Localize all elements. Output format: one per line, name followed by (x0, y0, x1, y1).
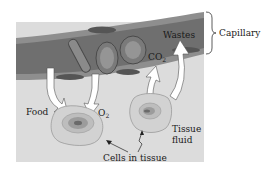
red-blood-cell-center (125, 41, 141, 59)
cells-in-tissue-label: Cells in tissue (103, 154, 167, 163)
cells-in-tissue-text: Cells in tissue (103, 153, 167, 163)
co2-subscript: 2 (162, 56, 166, 63)
o2-label: O2 (98, 109, 109, 119)
cell-1-nucleolus (74, 121, 82, 125)
endothelial-nucleus (116, 69, 140, 75)
endothelial-nucleus (56, 74, 84, 80)
food-text: Food (26, 107, 48, 117)
tissue-fluid-line-1: Tissue (172, 124, 201, 135)
wastes-text: Wastes (163, 30, 195, 40)
cell-2-nucleolus (144, 109, 150, 112)
red-blood-cell-center (100, 47, 114, 69)
co2-text: CO (148, 52, 162, 62)
co2-label: CO2 (148, 53, 166, 63)
tissue-fluid-label: Tissue fluid (172, 124, 201, 146)
capillary-text: Capillary (219, 28, 260, 38)
o2-subscript: 2 (105, 112, 109, 119)
endothelial-nucleus (88, 27, 116, 34)
capillary-diagram (0, 0, 280, 173)
food-label: Food (26, 108, 48, 117)
capillary-brace-icon (206, 12, 216, 54)
tissue-fluid-line-2: fluid (172, 135, 201, 146)
wastes-label: Wastes (163, 31, 195, 40)
capillary-label: Capillary (219, 29, 260, 38)
